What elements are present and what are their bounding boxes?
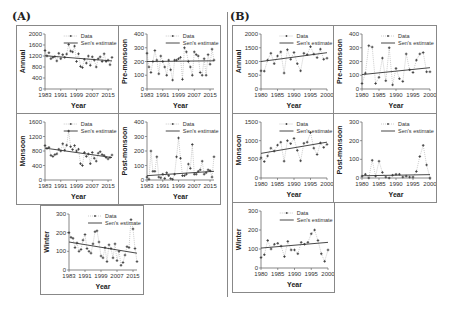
svg-text:1500: 1500 xyxy=(245,119,259,125)
svg-text:1991: 1991 xyxy=(156,183,170,189)
svg-text:Monsoon: Monsoon xyxy=(19,135,26,166)
chart-svg: 010020030040019801985199019952000YearPre… xyxy=(334,26,436,113)
svg-text:300: 300 xyxy=(134,45,145,51)
svg-text:300: 300 xyxy=(349,45,360,51)
svg-text:1995: 1995 xyxy=(304,92,318,98)
svg-text:200: 200 xyxy=(134,59,145,65)
svg-text:Data: Data xyxy=(183,33,196,39)
svg-text:1983: 1983 xyxy=(140,92,154,98)
svg-text:1983: 1983 xyxy=(62,273,76,279)
chart-svg: 04008001200160019831991199920072015YearM… xyxy=(17,114,118,204)
svg-text:300: 300 xyxy=(56,211,67,217)
chart-b-winter: 010020030019801985199019952000YearWinter… xyxy=(232,202,335,293)
svg-text:1980: 1980 xyxy=(254,92,268,98)
svg-text:1600: 1600 xyxy=(29,42,43,48)
svg-text:Annual: Annual xyxy=(19,50,26,74)
svg-text:1985: 1985 xyxy=(271,181,285,187)
svg-text:Year: Year xyxy=(287,281,302,288)
svg-text:400: 400 xyxy=(134,31,145,37)
svg-text:2000: 2000 xyxy=(29,31,43,37)
svg-text:1999: 1999 xyxy=(172,183,186,189)
svg-text:Year: Year xyxy=(173,102,188,109)
chart-a-postmonsoon: 010020030040019831991199920072015YearPos… xyxy=(118,113,221,205)
svg-text:1980: 1980 xyxy=(254,181,268,187)
svg-text:100: 100 xyxy=(134,163,145,169)
svg-text:1990: 1990 xyxy=(389,92,403,98)
svg-text:Sen's estimate: Sen's estimate xyxy=(183,40,219,46)
svg-text:800: 800 xyxy=(32,148,43,154)
svg-text:1999: 1999 xyxy=(172,92,186,98)
svg-text:2000: 2000 xyxy=(245,31,259,37)
svg-text:1000: 1000 xyxy=(245,59,259,65)
svg-text:Pre-monsoon: Pre-monsoon xyxy=(121,39,128,84)
svg-text:2000: 2000 xyxy=(423,181,436,187)
chart-svg: 010020030040019831991199920072015YearPre… xyxy=(119,26,220,113)
panel-b-label: (B) xyxy=(230,10,250,23)
svg-text:100: 100 xyxy=(349,72,360,78)
chart-b-postmonsoon: 010020030019801985199019952000YearPost-m… xyxy=(333,113,437,203)
svg-text:1990: 1990 xyxy=(389,181,403,187)
svg-text:1991: 1991 xyxy=(54,92,68,98)
svg-text:Sen's estimate: Sen's estimate xyxy=(81,40,117,46)
svg-text:Annual: Annual xyxy=(235,50,242,74)
chart-svg: 050010001500200019801985199019952000Year… xyxy=(233,26,333,113)
svg-text:500: 500 xyxy=(248,72,259,78)
svg-text:Post-monsoon: Post-monsoon xyxy=(121,127,128,176)
svg-text:2000: 2000 xyxy=(320,92,333,98)
chart-svg: 040080012001600200019831991199920072015Y… xyxy=(17,26,118,113)
svg-text:1983: 1983 xyxy=(38,183,52,189)
svg-text:Year: Year xyxy=(173,193,188,200)
chart-svg: 010020030019831991199920072015YearWinter… xyxy=(41,206,143,294)
svg-text:400: 400 xyxy=(32,75,43,81)
chart-b-monsoon: 05001000150019801985199019952000YearMons… xyxy=(232,113,334,203)
chart-svg: 010020030019801985199019952000YearWinter… xyxy=(233,203,334,292)
svg-text:1995: 1995 xyxy=(304,181,318,187)
svg-text:1990: 1990 xyxy=(287,181,301,187)
svg-text:2007: 2007 xyxy=(86,92,100,98)
svg-text:Data: Data xyxy=(81,121,94,127)
svg-text:100: 100 xyxy=(134,72,145,78)
svg-text:Winter: Winter xyxy=(43,231,50,253)
svg-text:800: 800 xyxy=(32,64,43,70)
svg-text:200: 200 xyxy=(349,138,360,144)
svg-text:200: 200 xyxy=(248,227,259,233)
svg-text:1999: 1999 xyxy=(70,92,84,98)
svg-text:2015: 2015 xyxy=(126,273,140,279)
svg-text:2007: 2007 xyxy=(188,92,202,98)
svg-text:2000: 2000 xyxy=(320,181,333,187)
panel-a-label: (A) xyxy=(12,10,31,23)
svg-text:Pre-monsoon: Pre-monsoon xyxy=(336,39,343,84)
svg-text:Sen's estimate: Sen's estimate xyxy=(398,40,434,46)
svg-text:1985: 1985 xyxy=(372,181,386,187)
svg-text:Year: Year xyxy=(389,102,404,109)
svg-text:Winter: Winter xyxy=(235,228,242,250)
svg-text:1995: 1995 xyxy=(406,92,420,98)
svg-text:Year: Year xyxy=(71,102,86,109)
svg-text:100: 100 xyxy=(56,248,67,254)
svg-text:Data: Data xyxy=(296,33,309,39)
svg-text:300: 300 xyxy=(349,119,360,125)
chart-svg: 010020030040019831991199920072015YearPos… xyxy=(119,114,220,204)
svg-text:Year: Year xyxy=(71,193,86,200)
svg-text:300: 300 xyxy=(248,208,259,214)
svg-text:Sen's estimate: Sen's estimate xyxy=(105,220,141,226)
chart-a-monsoon: 04008001200160019831991199920072015YearM… xyxy=(16,113,119,205)
svg-text:1995: 1995 xyxy=(406,181,420,187)
svg-text:1000: 1000 xyxy=(245,138,259,144)
chart-svg: 05001000150019801985199019952000YearMons… xyxy=(233,114,333,202)
svg-text:2007: 2007 xyxy=(86,183,100,189)
svg-text:1985: 1985 xyxy=(271,92,285,98)
svg-text:Year: Year xyxy=(287,102,302,109)
svg-text:500: 500 xyxy=(248,156,259,162)
chart-a-winter: 010020030019831991199920072015YearWinter… xyxy=(40,205,144,295)
svg-text:1980: 1980 xyxy=(355,92,369,98)
svg-text:200: 200 xyxy=(349,59,360,65)
chart-a-premonsoon: 010020030040019831991199920072015YearPre… xyxy=(118,25,221,114)
svg-text:200: 200 xyxy=(56,230,67,236)
svg-text:Year: Year xyxy=(389,191,404,198)
svg-text:200: 200 xyxy=(134,148,145,154)
svg-text:Monsoon: Monsoon xyxy=(235,134,242,165)
svg-text:1999: 1999 xyxy=(70,183,84,189)
svg-text:1600: 1600 xyxy=(29,119,43,125)
svg-text:Year: Year xyxy=(287,191,302,198)
